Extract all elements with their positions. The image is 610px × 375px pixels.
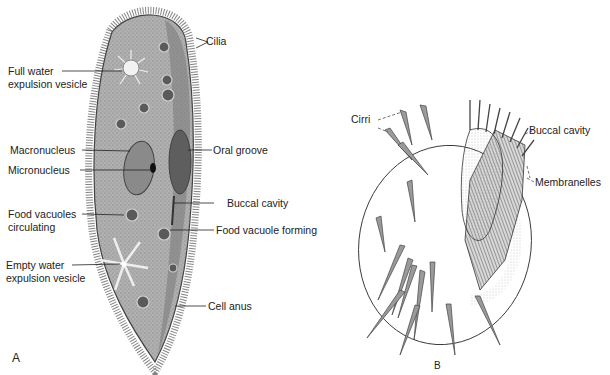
- label-empty-vesicle-line1: Empty water: [6, 259, 64, 271]
- hypotrich-illustration: [343, 100, 547, 358]
- label-empty-vesicle-line2: expulsion vesicle: [6, 272, 85, 284]
- paramecium-illustration: [89, 10, 199, 372]
- label-food-vacuole-forming: Food vacuole forming: [216, 224, 317, 236]
- label-buccal-cavity-b: Buccal cavity: [529, 124, 590, 136]
- label-oral-groove: Oral groove: [213, 144, 268, 156]
- label-cell-anus: Cell anus: [208, 300, 252, 312]
- label-food-vacuoles-line1: Food vacuoles: [8, 208, 76, 220]
- label-micronucleus: Micronucleus: [8, 164, 70, 176]
- label-full-vesicle-line2: expulsion vesicle: [8, 78, 87, 90]
- panel-letter-b: B: [434, 360, 441, 371]
- label-cilia: Cilia: [206, 35, 226, 47]
- label-buccal-cavity-a: Buccal cavity: [227, 197, 288, 209]
- panel-letter-a: A: [12, 351, 20, 365]
- label-cirri: Cirri: [351, 113, 370, 125]
- label-food-vacuoles-line2: circulating: [8, 221, 55, 233]
- label-full-vesicle-line1: Full water: [8, 65, 54, 77]
- label-macronucleus: Macronucleus: [10, 144, 75, 156]
- label-membranelles: Membranelles: [535, 176, 601, 188]
- figure-canvas: [0, 0, 610, 375]
